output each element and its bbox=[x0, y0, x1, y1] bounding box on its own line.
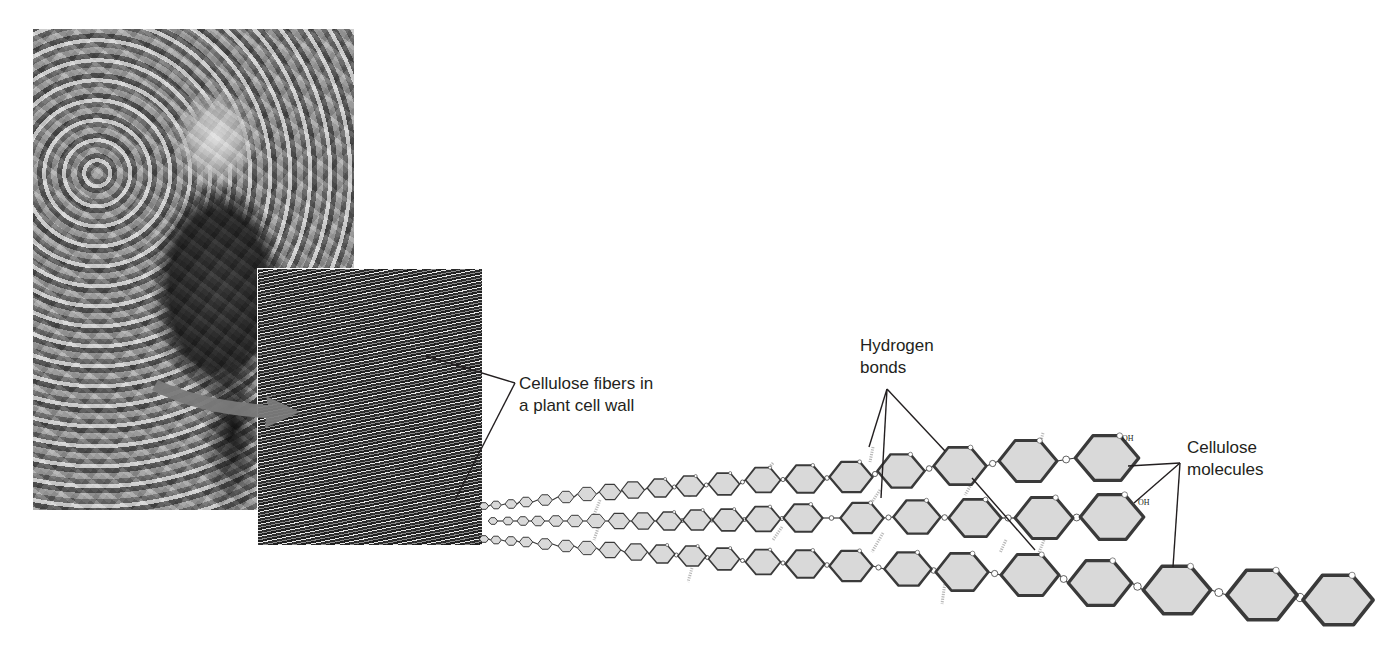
hydrogen-bond bbox=[870, 447, 873, 462]
oxygen-atom bbox=[704, 483, 708, 487]
glucose-ring bbox=[678, 546, 706, 566]
oxygen-atom bbox=[781, 561, 785, 565]
glucose-ring bbox=[531, 516, 545, 526]
hydrogen-bond bbox=[1000, 540, 1006, 553]
label-cellulose-fibers: Cellulose fibers in a plant cell wall bbox=[519, 373, 653, 417]
glucose-ring bbox=[622, 482, 645, 498]
glucose-ring bbox=[505, 500, 517, 509]
ring-oxygen bbox=[666, 543, 669, 546]
glucose-ring bbox=[745, 468, 780, 493]
ring-oxygen bbox=[809, 502, 812, 505]
glycosidic-bond bbox=[501, 540, 505, 541]
label-line: Cellulose fibers in bbox=[519, 373, 653, 395]
glucose-ring bbox=[829, 462, 872, 492]
oh-label: OH bbox=[1122, 434, 1134, 443]
glucose-ring bbox=[884, 552, 931, 585]
glucose-ring bbox=[558, 491, 574, 502]
glucose-ring bbox=[999, 441, 1057, 482]
oxygen-atom bbox=[872, 471, 877, 476]
glucose-ring bbox=[578, 541, 597, 554]
oxygen-atom bbox=[990, 460, 996, 466]
label-hydrogen-bonds: Hydrogen bonds bbox=[860, 335, 934, 379]
glucose-ring bbox=[632, 513, 655, 529]
glucose-ring bbox=[503, 517, 514, 525]
leader-line bbox=[455, 383, 515, 500]
glucose-ring bbox=[519, 537, 533, 547]
glucose-ring bbox=[625, 544, 648, 560]
glucose-ring bbox=[505, 537, 517, 546]
oxygen-atom bbox=[926, 466, 932, 472]
glycosidic-bond bbox=[533, 542, 538, 544]
glucose-ring bbox=[785, 550, 824, 578]
ring-oxygen bbox=[1037, 438, 1042, 443]
oxygen-atom bbox=[1134, 583, 1142, 591]
glycosidic-bond bbox=[533, 500, 538, 502]
glucose-ring bbox=[712, 509, 743, 531]
glucose-ring bbox=[1080, 495, 1143, 540]
glucose-ring bbox=[656, 512, 682, 530]
glucose-ring bbox=[538, 539, 553, 549]
glucose-ring bbox=[949, 499, 1002, 536]
ring-oxygen bbox=[968, 445, 973, 450]
hydrogen-bond bbox=[594, 500, 600, 515]
ring-oxygen bbox=[1349, 572, 1355, 578]
ring-oxygen bbox=[970, 551, 975, 556]
ring-oxygen bbox=[858, 460, 862, 464]
glucose-ring bbox=[649, 545, 675, 563]
glucose-ring bbox=[479, 503, 488, 510]
cellulose-chains-diagram: OHOH bbox=[0, 0, 1395, 648]
glucose-ring bbox=[549, 516, 564, 526]
ring-oxygen bbox=[869, 501, 873, 505]
oxygen-atom bbox=[876, 565, 881, 570]
ring-oxygen bbox=[811, 463, 814, 466]
ring-oxygen bbox=[924, 498, 928, 502]
glucose-ring bbox=[1303, 575, 1373, 624]
glucose-ring bbox=[934, 447, 987, 484]
hydrogen-bond bbox=[594, 528, 598, 540]
hydrogen-bond bbox=[942, 582, 945, 604]
glucose-ring bbox=[829, 551, 872, 581]
glycosidic-bond bbox=[574, 546, 577, 548]
oxygen-atom bbox=[829, 516, 834, 521]
glucose-ring bbox=[587, 514, 606, 527]
glycosidic-bond bbox=[552, 497, 557, 500]
glucose-ring bbox=[491, 501, 502, 509]
label-line: Hydrogen bbox=[860, 335, 934, 357]
glucose-ring bbox=[488, 518, 497, 525]
ring-oxygen bbox=[811, 548, 814, 551]
glucose-ring bbox=[519, 497, 533, 507]
ring-oxygen bbox=[696, 545, 699, 548]
glucose-ring bbox=[785, 465, 824, 493]
leader-line bbox=[1173, 463, 1180, 567]
label-line: molecules bbox=[1187, 459, 1264, 481]
glucose-ring bbox=[608, 513, 630, 528]
label-cellulose-molecules: Cellulose molecules bbox=[1187, 437, 1264, 481]
glucose-ring bbox=[578, 487, 597, 500]
ring-oxygen bbox=[1053, 495, 1058, 500]
ring-oxygen bbox=[908, 452, 912, 456]
glycosidic-bond bbox=[501, 504, 505, 505]
ring-oxygen bbox=[664, 477, 667, 480]
oh-label: OH bbox=[1138, 498, 1150, 507]
glucose-ring bbox=[1143, 566, 1211, 614]
glucose-ring bbox=[1068, 561, 1131, 606]
glucose-ring bbox=[708, 473, 739, 495]
ring-oxygen bbox=[1122, 492, 1128, 498]
glucose-ring bbox=[745, 550, 780, 575]
ring-oxygen bbox=[673, 510, 676, 513]
glycosidic-bond bbox=[574, 494, 577, 497]
oxygen-atom bbox=[781, 477, 785, 481]
ring-oxygen bbox=[1110, 558, 1116, 564]
oxygen-atom bbox=[992, 570, 998, 576]
glucose-ring bbox=[599, 484, 621, 499]
ring-oxygen bbox=[729, 472, 732, 475]
glucose-ring bbox=[558, 540, 574, 551]
ring-oxygen bbox=[1039, 552, 1044, 557]
glucose-ring bbox=[676, 476, 704, 496]
oxygen-atom bbox=[740, 480, 744, 484]
glucose-ring bbox=[517, 517, 529, 526]
hydrogen-bond bbox=[872, 533, 883, 552]
glucose-ring bbox=[1227, 570, 1297, 619]
glucose-ring bbox=[683, 510, 711, 530]
ring-oxygen bbox=[983, 497, 988, 502]
